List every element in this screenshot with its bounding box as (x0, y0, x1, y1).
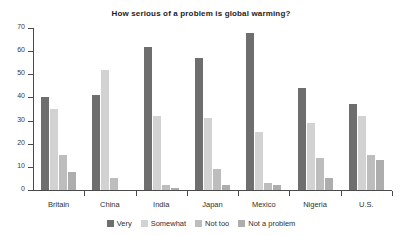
legend-label: Very (117, 219, 132, 228)
y-axis-tick-label: 50 (17, 69, 25, 76)
bar (50, 109, 58, 190)
x-axis-tick (341, 191, 342, 196)
legend-item[interactable]: Not too (195, 219, 229, 228)
x-axis-tick (289, 191, 290, 196)
y-axis-tick-label: 0 (21, 185, 25, 192)
bar (144, 47, 152, 190)
legend-item[interactable]: Not a problem (238, 219, 295, 228)
legend-swatch-icon (141, 220, 148, 227)
bar (204, 118, 212, 190)
bar (376, 160, 384, 190)
bar (349, 104, 357, 190)
legend-item[interactable]: Somewhat (141, 219, 186, 228)
chart-title: How serious of a problem is global warmi… (0, 9, 402, 18)
y-axis-tick-label: 20 (17, 139, 25, 146)
y-axis-tick: 0 (28, 190, 33, 191)
bar-group (246, 28, 281, 190)
plot-area (33, 28, 392, 190)
bar (222, 185, 230, 190)
x-axis-category-label: Japan (202, 200, 222, 209)
bar (59, 155, 67, 190)
bar-group (92, 28, 127, 190)
legend-label: Not a problem (248, 219, 295, 228)
bar (92, 95, 100, 190)
y-axis-tick-label: 60 (17, 46, 25, 53)
bar (162, 185, 170, 190)
bar (316, 158, 324, 190)
bar (255, 132, 263, 190)
bar (110, 178, 118, 190)
x-axis-tick (136, 191, 137, 196)
x-axis-category-label: China (100, 200, 120, 209)
bar (153, 116, 161, 190)
y-axis-tick-label: 30 (17, 116, 25, 123)
bar-group (349, 28, 384, 190)
bar (213, 169, 221, 190)
bar-group (41, 28, 76, 190)
x-axis-tick (84, 191, 85, 196)
bar (264, 183, 272, 190)
bar-group (195, 28, 230, 190)
y-axis-tick-label: 70 (17, 23, 25, 30)
legend-swatch-icon (195, 220, 202, 227)
legend-swatch-icon (107, 220, 114, 227)
legend-label: Not too (205, 219, 229, 228)
bar (195, 58, 203, 190)
x-axis-tick (392, 191, 393, 196)
legend-swatch-icon (238, 220, 245, 227)
bar (273, 185, 281, 190)
bar-chart-figure: How serious of a problem is global warmi… (0, 0, 402, 236)
chart-legend: VerySomewhatNot tooNot a problem (0, 219, 402, 228)
bar-group (144, 28, 179, 190)
x-axis-category-label: Mexico (252, 200, 276, 209)
x-axis-line (33, 190, 392, 191)
x-axis-category-label: Britain (48, 200, 69, 209)
bar (325, 178, 333, 190)
bar (101, 70, 109, 190)
legend-label: Somewhat (151, 219, 186, 228)
y-axis-tick-label: 10 (17, 162, 25, 169)
bar (171, 188, 179, 190)
x-axis-tick (187, 191, 188, 196)
y-axis-tick-label: 40 (17, 92, 25, 99)
x-axis-category-label: Nigeria (303, 200, 327, 209)
bar (298, 88, 306, 190)
bar (367, 155, 375, 190)
bar (246, 33, 254, 190)
bar (41, 97, 49, 190)
legend-item[interactable]: Very (107, 219, 132, 228)
x-axis-tick (238, 191, 239, 196)
bar (68, 172, 76, 191)
bar-group (298, 28, 333, 190)
bar (307, 123, 315, 190)
x-axis-category-label: India (153, 200, 169, 209)
x-axis-category-label: U.S. (359, 200, 374, 209)
bar (358, 116, 366, 190)
